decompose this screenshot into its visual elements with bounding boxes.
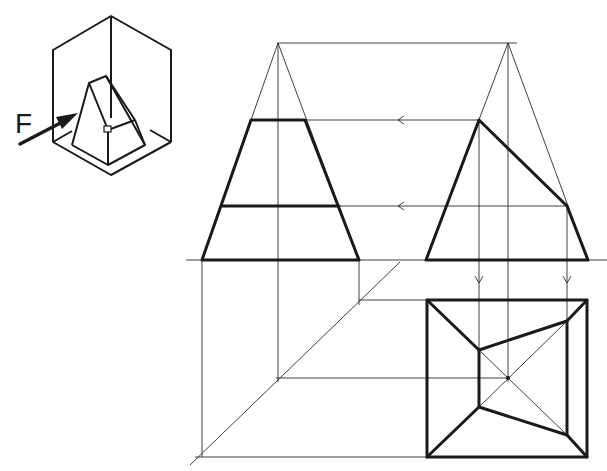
projection-drawing: F [0, 0, 607, 471]
direction-label: F [15, 108, 32, 139]
isometric-view: F [15, 16, 171, 175]
front-view [202, 120, 359, 260]
arrow-head-icon [56, 113, 78, 129]
iso-pyramid [72, 76, 145, 165]
apex-point [506, 376, 510, 380]
top-view [427, 300, 587, 457]
iso-box [53, 16, 171, 175]
view-direction-arrow: F [15, 108, 78, 144]
side-view [426, 120, 588, 260]
projection-lines [186, 43, 607, 465]
miter-line [190, 262, 400, 465]
